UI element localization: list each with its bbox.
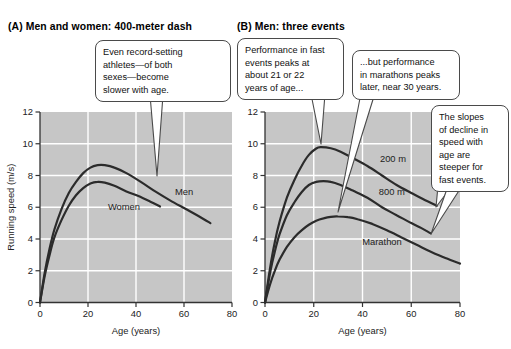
x-tick-label: 20 xyxy=(83,308,93,319)
callout-fast-events-peak: Performance in fast events peaks at abou… xyxy=(237,38,344,100)
figure-aging-athletes: 024681012020406080Age (years)Running spe… xyxy=(0,0,511,349)
curve-label-marathon: Marathon xyxy=(362,236,402,247)
y-tick-label: 4 xyxy=(28,233,33,244)
y-tick-label: 10 xyxy=(23,138,33,149)
x-tick-label: 40 xyxy=(357,308,367,319)
y-tick-label: 0 xyxy=(253,297,258,308)
y-tick-label: 0 xyxy=(28,297,33,308)
y-tick-label: 12 xyxy=(248,106,258,117)
x-tick-label: 20 xyxy=(309,308,319,319)
x-axis-label: Age (years) xyxy=(338,325,386,336)
y-tick-label: 8 xyxy=(253,170,258,181)
panel-b-title: (B) Men: three events xyxy=(237,21,345,32)
curve-label-800-m: 800 m xyxy=(379,186,405,197)
y-tick-label: 10 xyxy=(248,138,258,149)
curve-label-200-m: 200 m xyxy=(380,153,406,164)
y-tick-label: 6 xyxy=(253,201,258,212)
y-tick-label: 8 xyxy=(28,170,33,181)
callout-record-setting: Even record-setting athletes—of both sex… xyxy=(95,40,231,102)
y-tick-label: 4 xyxy=(253,233,258,244)
x-tick-label: 0 xyxy=(262,308,267,319)
curve-label-women: Women xyxy=(108,201,140,212)
x-tick-label: 60 xyxy=(179,308,189,319)
y-tick-label: 2 xyxy=(28,265,33,276)
y-tick-label: 6 xyxy=(28,201,33,212)
x-tick-label: 40 xyxy=(131,308,141,319)
x-tick-label: 80 xyxy=(455,308,465,319)
x-axis-label: Age (years) xyxy=(112,325,160,336)
callout-slopes: The slopes of decline in speed with age … xyxy=(431,105,509,192)
callout-marathon-peak: ...but performance in marathons peaks la… xyxy=(352,50,460,100)
y-axis-label: Running speed (m/s) xyxy=(5,164,16,251)
panel-a-title: (A) Men and women: 400-meter dash xyxy=(8,21,192,32)
curve-label-men: Men xyxy=(175,186,193,197)
x-tick-label: 60 xyxy=(406,308,416,319)
y-tick-label: 2 xyxy=(253,265,258,276)
y-tick-label: 12 xyxy=(23,106,33,117)
x-tick-label: 0 xyxy=(37,308,42,319)
x-tick-label: 80 xyxy=(227,308,237,319)
